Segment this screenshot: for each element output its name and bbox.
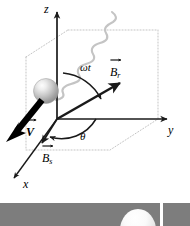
adjacent-figure-strip <box>0 203 190 226</box>
vector-label-v: V <box>26 122 34 140</box>
axis-label-x: x <box>23 178 28 190</box>
vector-accent-arrow-icon <box>110 57 123 62</box>
adjacent-figure-dome <box>120 209 156 226</box>
axis-label-y: y <box>168 124 173 136</box>
angle-omega-t-arc <box>63 73 101 99</box>
vector-accent-arrow-icon <box>42 143 55 148</box>
shaded-sphere <box>34 79 59 104</box>
angle-label-theta: θ <box>80 131 85 142</box>
vector-label-b-r: Br <box>110 62 120 80</box>
vector-label-b-s-sub: s <box>49 157 52 166</box>
angle-theta-arc <box>50 119 96 139</box>
vector-label-b-r-sub: r <box>117 71 120 80</box>
vector-label-b-s: Bs <box>42 148 52 166</box>
axis-label-z: z <box>44 3 49 15</box>
angle-label-omega-t: ωt <box>80 62 91 73</box>
vector-accent-arrow-icon <box>26 117 38 122</box>
incident-wave <box>56 12 116 100</box>
figure-root: z y x ωt θ Br Bs V <box>0 0 190 226</box>
diagram-canvas <box>0 0 190 226</box>
vector-label-v-base: V <box>26 125 34 139</box>
adjacent-figure-separator <box>160 203 163 226</box>
vector-b-s-line <box>42 119 57 143</box>
vector-b-r-line <box>57 83 120 119</box>
